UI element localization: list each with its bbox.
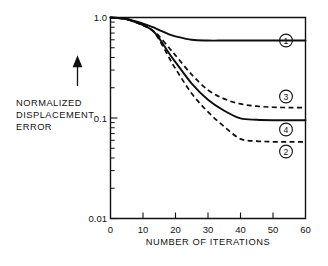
- marker-number: 1: [284, 36, 289, 46]
- data-curve-4: [111, 18, 306, 121]
- y-axis-ticks: [111, 18, 118, 219]
- data-curves: [111, 18, 306, 142]
- x-tick-label: 30: [203, 224, 214, 235]
- curve-marker-4: 4: [280, 123, 293, 136]
- x-axis-ticks: [143, 213, 273, 219]
- chart-svg: 1.0 0.1 0.01 0102030405060 NUMBER OF ITE…: [0, 0, 328, 266]
- data-curve-1: [111, 18, 306, 41]
- y-axis-title-line1: NORMALIZED: [16, 98, 82, 108]
- x-axis-title: NUMBER OF ITERATIONS: [146, 237, 270, 247]
- plot-frame: [111, 18, 306, 219]
- marker-number: 4: [284, 125, 289, 135]
- curve-marker-2: 2: [280, 145, 293, 158]
- curve-markers: 1342: [280, 34, 293, 158]
- curve-marker-3: 3: [280, 90, 293, 103]
- marker-number: 2: [284, 147, 289, 157]
- data-curve-2: [111, 18, 306, 142]
- x-tick-label: 60: [300, 224, 311, 235]
- x-tick-label: 0: [108, 224, 113, 235]
- data-curve-3: [111, 18, 306, 108]
- x-tick-label: 20: [170, 224, 181, 235]
- chart-figure: 1.0 0.1 0.01 0102030405060 NUMBER OF ITE…: [0, 0, 328, 266]
- x-tick-label: 10: [138, 224, 149, 235]
- marker-number: 3: [284, 92, 289, 102]
- y-axis-title-line2: DISPLACEMENT: [16, 110, 94, 120]
- x-tick-label: 40: [235, 224, 246, 235]
- y-axis-title: NORMALIZED DISPLACEMENT ERROR: [16, 98, 94, 132]
- y-tick-label-bottom: 0.01: [89, 213, 108, 224]
- x-tick-labels: 0102030405060: [108, 224, 311, 235]
- up-arrow-icon: [74, 57, 82, 86]
- x-tick-label: 50: [268, 224, 279, 235]
- y-tick-label-mid: 0.1: [94, 113, 107, 124]
- y-axis-title-line3: ERROR: [16, 122, 52, 132]
- y-tick-label-top: 1.0: [94, 12, 107, 23]
